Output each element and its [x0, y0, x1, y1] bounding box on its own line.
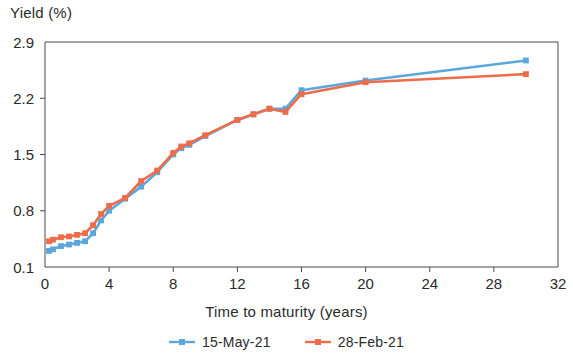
data-point-marker — [90, 222, 96, 228]
x-tick-label: 16 — [293, 275, 310, 292]
data-point-marker — [234, 117, 240, 123]
data-point-marker — [82, 230, 88, 236]
data-point-marker — [66, 234, 72, 240]
data-point-marker — [363, 79, 369, 85]
series-layer — [46, 58, 529, 254]
data-point-marker — [50, 237, 56, 243]
legend-line-icon — [305, 336, 331, 348]
y-tick-label: 1.5 — [13, 146, 34, 163]
data-point-marker — [66, 242, 72, 248]
chart-root: Yield (%) 0.10.81.52.22.9048121620242832… — [0, 0, 573, 358]
x-tick-label: 28 — [486, 275, 503, 292]
data-point-marker — [299, 91, 305, 97]
legend-line-icon — [169, 336, 195, 348]
series-28-Feb-21 — [46, 71, 529, 244]
data-point-marker — [251, 111, 257, 117]
data-point-marker — [122, 195, 128, 201]
series-15-May-21 — [46, 58, 529, 254]
data-point-marker — [283, 109, 289, 115]
legend-item-28-Feb-21[interactable]: 28-Feb-21 — [305, 334, 404, 350]
x-tick-label: 20 — [357, 275, 374, 292]
data-point-marker — [74, 232, 80, 238]
y-tick-label: 0.8 — [13, 202, 34, 219]
data-point-marker — [170, 150, 176, 156]
chart-plot: 0.10.81.52.22.9048121620242832 — [0, 0, 573, 300]
data-point-marker — [106, 203, 112, 209]
chart-legend: 15-May-2128-Feb-21 — [0, 334, 573, 350]
legend-item-15-May-21[interactable]: 15-May-21 — [169, 334, 271, 350]
legend-label: 15-May-21 — [202, 334, 271, 350]
data-point-marker — [523, 71, 529, 77]
data-point-marker — [58, 234, 64, 240]
data-point-marker — [154, 168, 160, 174]
y-tick-label: 2.2 — [13, 90, 34, 107]
data-point-marker — [186, 140, 192, 146]
data-point-marker — [74, 240, 80, 246]
data-point-marker — [50, 246, 56, 252]
tick-label-layer: 0.10.81.52.22.9048121620242832 — [13, 34, 566, 293]
y-tick-label: 2.9 — [13, 34, 34, 51]
x-tick-label: 24 — [421, 275, 438, 292]
data-point-marker — [138, 178, 144, 184]
x-tick-label: 8 — [169, 275, 177, 292]
data-point-marker — [58, 243, 64, 249]
data-point-marker — [202, 132, 208, 138]
y-tick-label: 0.1 — [13, 259, 34, 276]
x-tick-label: 0 — [41, 275, 49, 292]
data-point-marker — [82, 238, 88, 244]
x-tick-label: 4 — [105, 275, 113, 292]
x-axis-title: Time to maturity (years) — [0, 303, 573, 320]
data-point-marker — [90, 230, 96, 236]
data-point-marker — [267, 106, 273, 112]
data-point-marker — [178, 144, 184, 150]
x-tick-label: 32 — [550, 275, 567, 292]
data-point-marker — [523, 58, 529, 64]
data-point-marker — [98, 211, 104, 217]
x-tick-label: 12 — [229, 275, 246, 292]
legend-label: 28-Feb-21 — [338, 334, 404, 350]
